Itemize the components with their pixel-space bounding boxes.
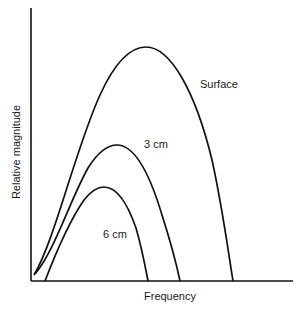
- curve-3cm: [35, 145, 180, 281]
- label-6cm: 6 cm: [103, 228, 127, 240]
- curve-6cm: [45, 187, 148, 281]
- chart-figure: Surface 3 cm 6 cm Frequency Relative mag…: [0, 0, 296, 311]
- label-surface: Surface: [200, 78, 238, 90]
- y-axis-label: Relative magnitude: [10, 105, 22, 199]
- x-axis-label: Frequency: [144, 290, 196, 302]
- label-3cm: 3 cm: [144, 138, 168, 150]
